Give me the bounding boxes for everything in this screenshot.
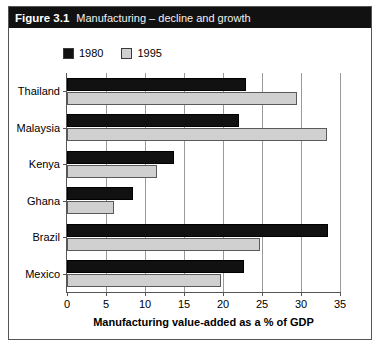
x-axis-title: Manufacturing value-added as a % of GDP bbox=[67, 316, 340, 328]
y-axis-tick bbox=[63, 274, 67, 275]
y-axis-label-brazil: Brazil bbox=[32, 231, 60, 243]
x-axis-tick-label: 10 bbox=[139, 298, 151, 310]
x-axis-tick bbox=[223, 292, 224, 296]
y-axis-tick bbox=[63, 237, 67, 238]
y-axis-label-malaysia: Malaysia bbox=[17, 122, 60, 134]
x-axis-tick-label: 0 bbox=[64, 298, 70, 310]
bar-kenya-1980 bbox=[67, 151, 174, 164]
figure-title: Manufacturing – decline and growth bbox=[76, 12, 250, 24]
bar-mexico-1980 bbox=[67, 260, 244, 273]
bar-brazil-1995 bbox=[67, 238, 260, 251]
legend-label-1995: 1995 bbox=[137, 47, 161, 59]
legend-label-1980: 1980 bbox=[79, 47, 103, 59]
bar-brazil-1980 bbox=[67, 224, 328, 237]
y-axis-tick bbox=[63, 164, 67, 165]
bar-thailand-1995 bbox=[67, 92, 297, 105]
chart-legend: 1980 1995 bbox=[63, 47, 162, 59]
legend-item-1980: 1980 bbox=[63, 47, 103, 59]
figure-container: Figure 3.1 Manufacturing – decline and g… bbox=[8, 6, 372, 340]
x-axis-tick-label: 25 bbox=[256, 298, 268, 310]
bar-mexico-1995 bbox=[67, 274, 221, 287]
bar-malaysia-1980 bbox=[67, 114, 239, 127]
x-axis-tick-label: 15 bbox=[178, 298, 190, 310]
bar-group: Mexico bbox=[67, 256, 340, 293]
bar-ghana-1980 bbox=[67, 187, 133, 200]
y-axis-tick bbox=[63, 201, 67, 202]
x-axis-tick bbox=[301, 292, 302, 296]
figure-title-bar: Figure 3.1 Manufacturing – decline and g… bbox=[9, 7, 371, 28]
y-axis-label-mexico: Mexico bbox=[25, 268, 60, 280]
y-axis-tick bbox=[63, 91, 67, 92]
x-axis-tick bbox=[145, 292, 146, 296]
x-gridline bbox=[340, 73, 341, 292]
bar-group: Ghana bbox=[67, 183, 340, 220]
y-axis-label-kenya: Kenya bbox=[29, 158, 60, 170]
bar-group: Malaysia bbox=[67, 110, 340, 147]
legend-item-1995: 1995 bbox=[121, 47, 161, 59]
x-axis-tick bbox=[106, 292, 107, 296]
plot-area: Manufacturing value-added as a % of GDP … bbox=[66, 73, 340, 293]
bar-thailand-1980 bbox=[67, 78, 246, 91]
bar-group: Thailand bbox=[67, 73, 340, 110]
x-axis-tick-label: 35 bbox=[334, 298, 346, 310]
y-axis-label-thailand: Thailand bbox=[18, 85, 60, 97]
x-axis-tick-label: 5 bbox=[103, 298, 109, 310]
y-axis-label-ghana: Ghana bbox=[27, 195, 60, 207]
bar-ghana-1995 bbox=[67, 201, 114, 214]
bar-kenya-1995 bbox=[67, 165, 157, 178]
legend-swatch-1995-icon bbox=[121, 48, 132, 59]
y-axis-tick bbox=[63, 128, 67, 129]
bar-malaysia-1995 bbox=[67, 128, 327, 141]
x-axis-tick-label: 30 bbox=[295, 298, 307, 310]
bar-group: Kenya bbox=[67, 146, 340, 183]
x-axis-tick bbox=[340, 292, 341, 296]
bar-group: Brazil bbox=[67, 219, 340, 256]
x-axis-tick bbox=[262, 292, 263, 296]
legend-swatch-1980-icon bbox=[63, 48, 74, 59]
figure-number: Figure 3.1 bbox=[15, 12, 69, 24]
x-axis-tick bbox=[184, 292, 185, 296]
x-axis-tick-label: 20 bbox=[217, 298, 229, 310]
x-axis-tick bbox=[67, 292, 68, 296]
